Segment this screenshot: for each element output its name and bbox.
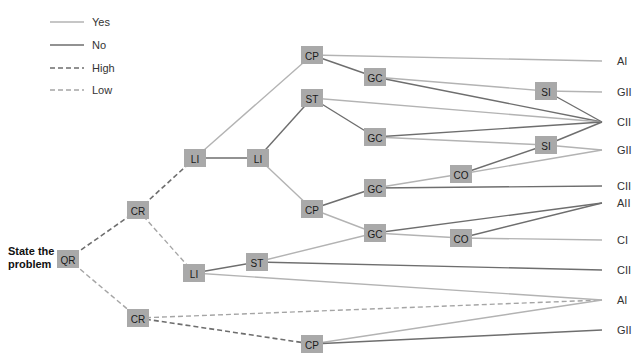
terminal-cii: CII — [617, 264, 631, 276]
edge-high-CR2-CP3 — [138, 318, 312, 344]
legend-item-yes: Yes — [50, 16, 110, 28]
root-label: State theproblem — [8, 245, 54, 270]
node-cr2: CR — [127, 309, 149, 327]
terminal-cii: CII — [617, 180, 631, 192]
edge-yes-CO1-T4 — [461, 150, 602, 174]
edge-yes-LI3-T9 — [194, 273, 602, 300]
node-label: CO — [454, 170, 469, 181]
node-cr1: CR — [127, 201, 149, 219]
edge-yes-ST2-GC4 — [257, 233, 375, 262]
root-label-line: problem — [8, 258, 52, 270]
node-li3: LI — [183, 264, 205, 282]
terminal-cii: CII — [617, 116, 631, 128]
edge-yes-CP1-T1 — [312, 55, 602, 61]
node-label: GC — [368, 133, 383, 144]
node-st2: ST — [246, 253, 268, 271]
edge-low-CR1-LI3 — [138, 210, 194, 273]
legend-label: Low — [92, 84, 112, 96]
node-li2: LI — [247, 149, 269, 167]
node-label: QR — [61, 255, 76, 266]
edges — [68, 55, 602, 344]
edge-no-CO1-SI2 — [461, 145, 546, 174]
legend-item-no: No — [50, 39, 106, 51]
node-cp1: CP — [301, 46, 323, 64]
edge-yes-GC4-CO2 — [375, 233, 461, 238]
node-label: CP — [305, 205, 319, 216]
node-label: CP — [305, 51, 319, 62]
node-gc2: GC — [364, 128, 386, 146]
legend-label: No — [92, 39, 106, 51]
node-label: SI — [541, 87, 550, 98]
node-label: CR — [131, 314, 145, 325]
terminal-gii: GII — [617, 324, 632, 336]
terminal-ai: AI — [617, 294, 627, 306]
node-label: GC — [368, 184, 383, 195]
node-gc1: GC — [364, 68, 386, 86]
decision-tree-diagram: YesNoHighLow State theproblem QRCRCRLILI… — [0, 0, 640, 364]
node-label: GC — [368, 229, 383, 240]
edge-yes-GC3-CO1 — [375, 174, 461, 188]
terminals: AIGIICIIGIICIIAIICICIIAIGII — [617, 55, 632, 336]
edge-no-ST2-T8 — [257, 262, 602, 270]
edge-no-GC3-T5 — [375, 186, 602, 188]
root-label-line: State the — [8, 245, 54, 257]
edge-yes-GC1-SI1 — [375, 77, 546, 91]
node-li1: LI — [184, 149, 206, 167]
legend-item-high: High — [50, 62, 115, 74]
node-st1: ST — [301, 89, 323, 107]
legend-label: Yes — [92, 16, 110, 28]
node-cp2: CP — [301, 200, 323, 218]
edge-no-GC4-T6 — [375, 203, 602, 233]
node-si1: SI — [535, 82, 557, 100]
node-label: CP — [305, 340, 319, 351]
node-label: GC — [368, 73, 383, 84]
legend: YesNoHighLow — [50, 16, 115, 96]
edge-no-GC1-T3 — [375, 77, 602, 122]
edge-yes-GC2-SI2 — [375, 137, 546, 145]
edge-yes-LI1-CP1 — [195, 55, 312, 158]
edge-low-CR2-T9 — [138, 300, 602, 318]
edge-yes-CO2-T7 — [461, 238, 602, 240]
node-gc4: GC — [364, 224, 386, 242]
node-cp3: CP — [301, 335, 323, 353]
node-label: ST — [306, 94, 319, 105]
terminal-ai: AI — [617, 55, 627, 67]
node-label: ST — [251, 258, 264, 269]
edge-yes-ST1-T3 — [312, 98, 602, 122]
terminal-ci: CI — [617, 234, 628, 246]
node-si2: SI — [535, 136, 557, 154]
terminal-gii: GII — [617, 144, 632, 156]
node-label: SI — [541, 141, 550, 152]
edge-no-GC2-T3 — [375, 122, 602, 137]
terminal-gii: GII — [617, 86, 632, 98]
node-label: LI — [190, 269, 198, 280]
node-qr: QR — [57, 250, 79, 268]
legend-item-low: Low — [50, 84, 112, 96]
node-label: LI — [254, 154, 262, 165]
terminal-aii: AII — [617, 197, 630, 209]
legend-label: High — [92, 62, 115, 74]
node-gc3: GC — [364, 179, 386, 197]
node-label: LI — [191, 154, 199, 165]
node-label: CR — [131, 206, 145, 217]
node-label: CO — [454, 234, 469, 245]
edge-no-CO2-T6 — [461, 203, 602, 238]
node-co1: CO — [450, 165, 472, 183]
nodes: QRCRCRLILILICPSTCPSTCPGCGCGCGCCOCOSISI — [57, 46, 557, 353]
node-co2: CO — [450, 229, 472, 247]
